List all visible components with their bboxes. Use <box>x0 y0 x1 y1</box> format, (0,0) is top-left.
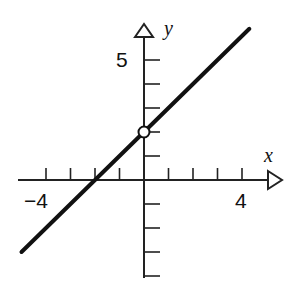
function-line <box>22 29 250 252</box>
y-axis-arrow-icon <box>135 24 153 37</box>
x-axis-arrow-icon <box>268 171 282 189</box>
open-points <box>139 127 150 138</box>
y-axis-label: y <box>164 18 173 38</box>
x-axis-label: x <box>264 145 273 165</box>
open-circle-icon <box>139 127 150 138</box>
graph: y x 5 −4 4 <box>0 0 294 284</box>
x-tick-label-4: 4 <box>235 190 247 211</box>
y-tick-label-5: 5 <box>116 49 128 70</box>
graph-canvas <box>0 0 294 284</box>
x-tick-label-neg4: −4 <box>24 190 48 211</box>
